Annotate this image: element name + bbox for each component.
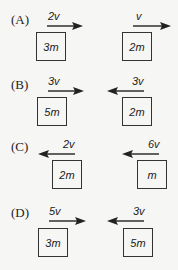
option-d: (D) 5v 3m 3v 5m — [0, 201, 178, 267]
arrow-right-icon — [49, 216, 86, 226]
option-b: (B) 3v 5m 3v 2m — [0, 71, 178, 137]
block-right: 2m — [122, 97, 152, 126]
arrow-right-icon — [133, 21, 171, 31]
arrow-left-icon — [107, 216, 144, 226]
option-label: (C) — [11, 139, 28, 155]
arrow-right-icon — [48, 86, 84, 96]
option-label: (D) — [11, 205, 29, 221]
option-label: (B) — [11, 77, 28, 93]
option-label: (A) — [11, 12, 29, 28]
block-right: m — [137, 160, 167, 189]
arrow-left-icon — [107, 86, 144, 96]
option-c: (C) 2v 2m 6v m — [0, 136, 178, 202]
block-left: 3m — [36, 32, 66, 61]
arrow-left-icon — [38, 149, 75, 159]
block-left: 2m — [52, 160, 82, 189]
block-left: 5m — [37, 97, 67, 126]
block-left: 3m — [38, 228, 68, 257]
option-a: (A) 2v 3m v 2m — [0, 6, 178, 72]
block-right: 5m — [123, 228, 153, 257]
block-right: 2m — [122, 32, 152, 61]
arrow-left-icon — [122, 149, 159, 159]
arrow-right-icon — [47, 21, 83, 31]
